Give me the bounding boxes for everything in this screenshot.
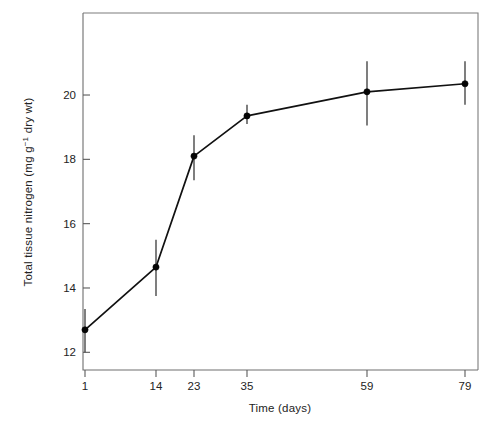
- plot-area-background: [83, 13, 478, 370]
- x-tick-label-23: 23: [188, 380, 201, 392]
- x-axis-ticks: [85, 370, 465, 377]
- figure-container: 20 18 16 14 12 1 14 23 35 59 79 Time (da…: [0, 0, 494, 422]
- data-point-35: [244, 113, 250, 119]
- line-chart: 20 18 16 14 12 1 14 23 35 59 79 Time (da…: [0, 0, 494, 422]
- y-tick-label-12: 12: [63, 346, 76, 358]
- x-tick-label-1: 1: [82, 380, 88, 392]
- y-tick-label-16: 16: [63, 218, 76, 230]
- y-tick-label-14: 14: [63, 282, 76, 294]
- x-tick-label-79: 79: [459, 380, 472, 392]
- x-axis-tick-labels: 1 14 23 35 59 79: [82, 380, 472, 392]
- data-point-79: [462, 81, 468, 87]
- y-axis-tick-labels: 20 18 16 14 12: [63, 89, 76, 358]
- data-point-14: [153, 264, 159, 270]
- y-tick-label-20: 20: [63, 89, 76, 101]
- y-tick-label-18: 18: [63, 153, 76, 165]
- x-tick-label-59: 59: [361, 380, 374, 392]
- y-axis-title: Total tissue nitrogen (mg g−1 dry wt): [21, 97, 34, 286]
- y-axis-title-after: dry wt): [22, 97, 34, 136]
- x-tick-label-35: 35: [241, 380, 254, 392]
- data-point-23: [191, 153, 197, 159]
- x-axis-title: Time (days): [249, 402, 311, 414]
- x-tick-label-14: 14: [150, 380, 163, 392]
- data-point-59: [364, 89, 370, 95]
- data-point-1: [82, 327, 88, 333]
- y-axis-title-superscript: −1: [21, 136, 30, 146]
- y-axis-title-before: Total tissue nitrogen (mg g: [22, 146, 34, 286]
